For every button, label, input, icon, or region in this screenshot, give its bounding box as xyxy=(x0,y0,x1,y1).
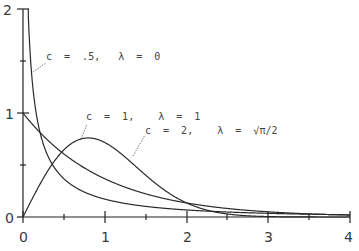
annotation-c1: c = 1, λ = 1 xyxy=(86,111,200,122)
x-tick-label-0: 0 xyxy=(19,229,28,245)
weibull-density-chart: 2 1 0 0 1 2 3 4 c = .5, λ = 0 c = 1, λ =… xyxy=(0,0,359,251)
y-tick-label-1: 1 xyxy=(5,106,14,122)
leader-line-c1 xyxy=(81,124,87,139)
leader-line-c05 xyxy=(33,63,46,72)
y-tick-label-0: 0 xyxy=(5,210,14,226)
curve-c-2 xyxy=(23,138,350,217)
y-tick-label-2: 2 xyxy=(3,2,12,18)
annotation-c05: c = .5, λ = 0 xyxy=(46,51,160,62)
x-tick-label-1: 1 xyxy=(101,229,110,245)
leader-line-c2 xyxy=(133,135,145,156)
annotation-c2: c = 2, λ = √π/2 xyxy=(145,125,277,136)
x-tick-label-3: 3 xyxy=(264,229,273,245)
x-tick-label-2: 2 xyxy=(183,229,192,245)
x-tick-label-4: 4 xyxy=(344,229,353,245)
